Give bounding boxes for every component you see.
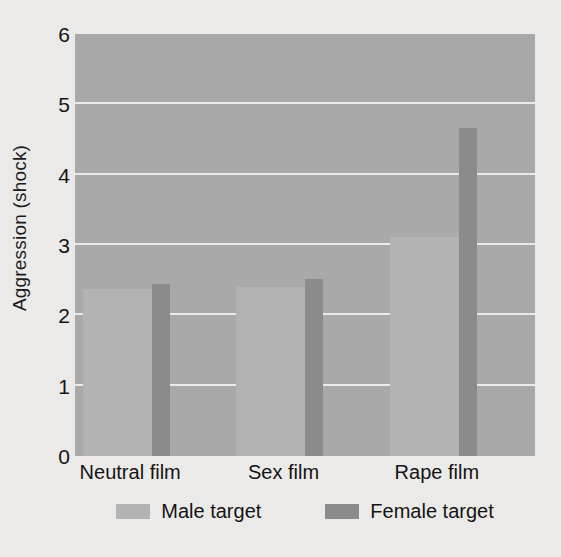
legend-entry[interactable]: Male target <box>116 501 261 521</box>
y-axis-tick-label: 6 <box>40 24 70 45</box>
bar-male-target[interactable] <box>236 287 313 456</box>
bar-female-target[interactable] <box>305 279 323 456</box>
legend-swatch-icon <box>116 504 150 519</box>
legend-swatch-icon <box>325 504 359 519</box>
y-axis-tick-label: 0 <box>40 446 70 467</box>
bar-female-target[interactable] <box>152 284 170 456</box>
x-axis-tick-label: Rape film <box>395 458 479 486</box>
bar-male-target[interactable] <box>83 289 160 456</box>
y-axis-tick-label: 2 <box>40 305 70 326</box>
y-axis-tick-label: 1 <box>40 375 70 396</box>
bar-female-target[interactable] <box>459 128 477 456</box>
legend-label: Male target <box>161 501 261 521</box>
y-axis-tick-labels: 0123456 <box>40 34 70 456</box>
y-axis-title-label: Aggression (shock) <box>9 145 31 311</box>
legend-label: Female target <box>370 501 493 521</box>
plot-area <box>75 34 535 456</box>
bar-group <box>382 34 535 456</box>
bar-male-target[interactable] <box>390 237 467 456</box>
x-axis-tick-labels: Neutral filmSex filmRape film <box>75 458 535 490</box>
y-axis-tick-label: 5 <box>40 94 70 115</box>
y-axis-tick-label: 4 <box>40 164 70 185</box>
bar-group <box>228 34 381 456</box>
bar-group <box>75 34 228 456</box>
x-axis-tick-label: Sex film <box>248 458 319 486</box>
chart-legend: Male targetFemale target <box>75 496 535 526</box>
y-axis-title: Aggression (shock) <box>0 0 40 456</box>
bar-chart-figure: Aggression (shock) 0123456 Neutral filmS… <box>0 0 561 557</box>
x-axis-tick-label: Neutral film <box>80 458 181 486</box>
y-axis-tick-label: 3 <box>40 235 70 256</box>
legend-entry[interactable]: Female target <box>325 501 493 521</box>
